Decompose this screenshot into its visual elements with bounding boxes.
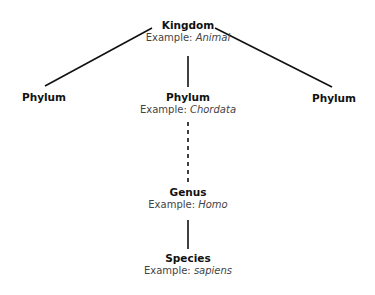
example-value: Homo	[198, 199, 228, 210]
example-prefix: Example:	[146, 32, 196, 43]
node-example: Example: Animal	[146, 32, 231, 45]
example-value: Chordata	[190, 104, 236, 115]
node-title: Phylum	[312, 92, 356, 105]
node-example: Example: Homo	[148, 199, 227, 212]
example-prefix: Example:	[144, 265, 194, 276]
example-prefix: Example:	[148, 199, 198, 210]
node-kingdom: Kingdom Example: Animal	[146, 19, 231, 45]
node-genus: Genus Example: Homo	[148, 186, 227, 212]
node-title: Species	[144, 252, 232, 265]
node-example: Example: Chordata	[140, 104, 236, 117]
node-title: Phylum	[22, 91, 66, 104]
example-value: sapiens	[194, 265, 232, 276]
node-species: Species Example: sapiens	[144, 252, 232, 278]
node-title: Kingdom	[146, 19, 231, 32]
node-phylum-right: Phylum	[312, 92, 356, 105]
node-title: Genus	[148, 186, 227, 199]
node-title: Phylum	[140, 91, 236, 104]
edge-kingdom-phylum-left	[45, 28, 152, 86]
node-phylum-center: Phylum Example: Chordata	[140, 91, 236, 117]
edge-kingdom-phylum-right	[215, 28, 332, 87]
node-phylum-left: Phylum	[22, 91, 66, 104]
node-example: Example: sapiens	[144, 265, 232, 278]
example-value: Animal	[196, 32, 231, 43]
example-prefix: Example:	[140, 104, 190, 115]
